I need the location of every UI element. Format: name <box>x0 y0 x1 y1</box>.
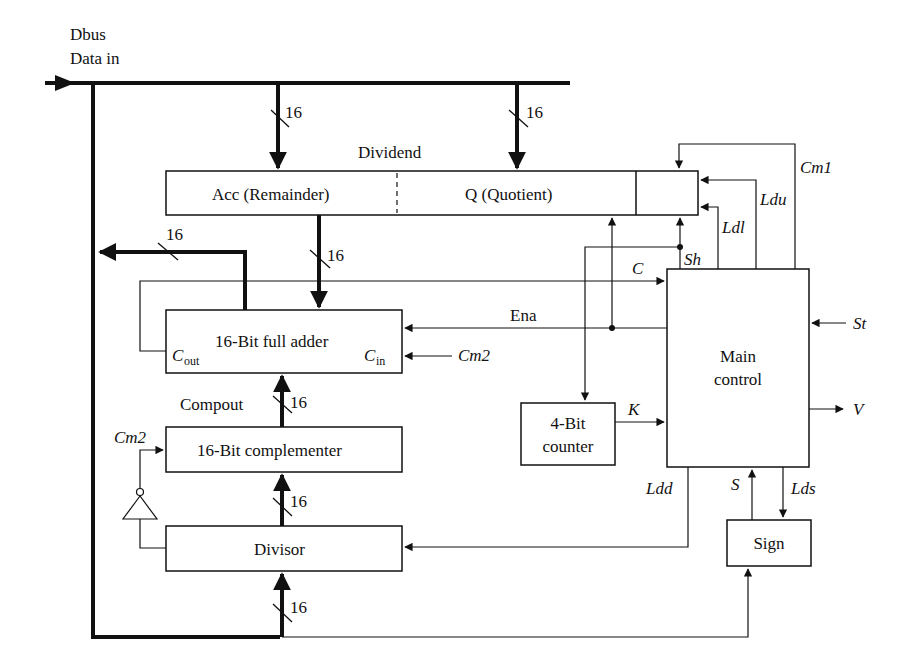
compout-width: 16 <box>290 393 307 412</box>
lds-signal-label: Lds <box>790 479 816 498</box>
v-signal-label: V <box>853 400 866 419</box>
acc-remainder-label: Acc (Remainder) <box>212 185 330 204</box>
sh-signal-label: Sh <box>684 250 701 269</box>
bus-sublabel: Data in <box>70 49 120 68</box>
counter-label: 4-Bit <box>551 414 586 433</box>
ldu-signal-label: Ldu <box>759 190 786 209</box>
divider-block-diagram: Dbus Data in 16 16 Dividend Acc (Remaind… <box>0 0 914 672</box>
cm2-adder-label: Cm2 <box>458 346 491 365</box>
st-signal-label: St <box>853 314 868 333</box>
q-quotient-label: Q (Quotient) <box>465 185 552 204</box>
full-adder-label: 16-Bit full adder <box>215 332 329 351</box>
ldd-signal-label: Ldd <box>645 479 673 498</box>
ena-signal-label: Ena <box>510 306 537 325</box>
cin-label: C <box>364 346 376 365</box>
cm2-comp-label: Cm2 <box>114 428 147 447</box>
sum-out-width: 16 <box>166 225 183 244</box>
complementer-label: 16-Bit complementer <box>197 441 342 460</box>
k-signal-label: K <box>627 400 641 419</box>
sign-label: Sign <box>753 534 785 553</box>
divisor-out-width: 16 <box>290 492 307 511</box>
acc-in-width: 16 <box>285 103 302 122</box>
svg-text:counter: counter <box>543 437 594 456</box>
main-control-label: Main <box>720 347 756 366</box>
divisor-label: Divisor <box>254 540 305 559</box>
cout-label: C <box>172 346 184 365</box>
svg-text:control: control <box>714 370 762 389</box>
divisor-in-width: 16 <box>290 598 307 617</box>
svg-text:out: out <box>184 354 200 368</box>
data-bus <box>45 75 570 637</box>
main-control-block <box>667 269 809 467</box>
svg-text:in: in <box>376 354 385 368</box>
compout-label: Compout <box>180 395 244 414</box>
dividend-label: Dividend <box>358 143 422 162</box>
s-signal-label: S <box>731 475 740 494</box>
ldl-signal-label: Ldl <box>721 218 745 237</box>
cm1-signal-label: Cm1 <box>800 158 832 177</box>
c-signal-label: C <box>632 259 644 278</box>
inverter-bubble-icon <box>137 489 144 496</box>
acc-out-width: 16 <box>327 246 344 265</box>
inverter-icon <box>123 496 157 519</box>
bus-input-arrow-icon <box>55 75 75 91</box>
q-in-width: 16 <box>526 103 543 122</box>
bus-label: Dbus <box>70 25 106 44</box>
